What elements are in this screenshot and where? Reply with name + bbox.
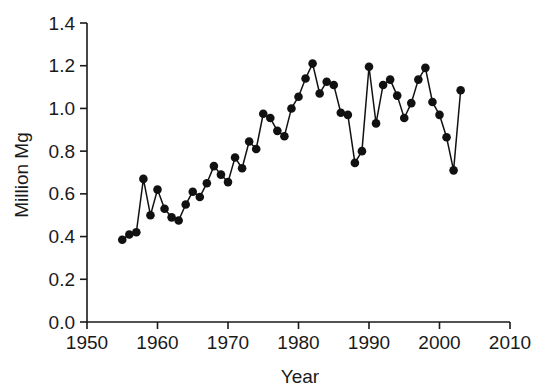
data-point-marker: [181, 200, 190, 209]
data-point-marker: [245, 137, 254, 146]
data-point-marker: [118, 235, 127, 244]
data-point-marker: [308, 59, 317, 68]
data-point-marker: [315, 89, 324, 98]
axis-frame: [87, 23, 510, 322]
x-tick-label: 2000: [418, 332, 460, 353]
line-chart: 0.00.20.40.60.81.01.21.4 195019601970198…: [0, 0, 549, 390]
data-point-marker: [414, 75, 423, 84]
data-point-marker: [407, 99, 416, 108]
y-axis-ticks: 0.00.20.40.60.81.01.21.4: [49, 13, 87, 333]
data-point-marker: [231, 153, 240, 162]
data-point-marker: [153, 185, 162, 194]
data-point-marker: [203, 179, 212, 188]
data-point-marker: [386, 75, 395, 84]
data-point-marker: [365, 62, 374, 71]
chart-figure: 0.00.20.40.60.81.01.21.4 195019601970198…: [0, 0, 549, 390]
x-tick-label: 2010: [489, 332, 531, 353]
x-tick-label: 1970: [207, 332, 249, 353]
y-tick-label: 0.0: [49, 312, 75, 333]
data-point-marker: [287, 104, 296, 113]
data-point-marker: [174, 216, 183, 225]
data-point-marker: [421, 64, 430, 73]
data-point-marker: [435, 111, 444, 120]
y-tick-label: 0.6: [49, 183, 75, 204]
data-point-marker: [273, 127, 282, 136]
x-tick-label: 1980: [277, 332, 319, 353]
data-point-marker: [329, 81, 338, 90]
data-point-marker: [372, 119, 381, 128]
data-point-marker: [449, 166, 458, 175]
data-point-marker: [456, 86, 465, 95]
data-point-marker: [146, 211, 155, 220]
data-point-marker: [301, 74, 310, 83]
data-point-marker: [210, 162, 219, 171]
data-point-marker: [400, 114, 409, 123]
data-point-marker: [139, 175, 148, 184]
y-tick-label: 1.0: [49, 98, 75, 119]
data-point-marker: [238, 164, 247, 173]
data-point-marker: [188, 187, 197, 196]
y-tick-label: 0.2: [49, 269, 75, 290]
y-tick-label: 1.4: [49, 13, 76, 34]
data-point-marker: [266, 114, 275, 123]
data-point-marker: [393, 91, 402, 100]
y-tick-label: 0.8: [49, 141, 75, 162]
data-point-marker: [160, 205, 169, 214]
data-point-marker: [280, 132, 289, 141]
x-axis-label: Year: [281, 366, 320, 387]
data-point-marker: [442, 133, 451, 142]
data-point-marker: [358, 147, 367, 156]
data-point-marker: [294, 92, 303, 101]
x-tick-label: 1950: [66, 332, 108, 353]
y-tick-label: 0.4: [49, 226, 76, 247]
y-tick-label: 1.2: [49, 55, 75, 76]
x-tick-label: 1960: [136, 332, 178, 353]
data-point-marker: [344, 111, 353, 120]
data-point-marker: [379, 81, 388, 90]
data-point-marker: [196, 193, 205, 202]
x-axis-ticks: 1950196019701980199020002010: [66, 322, 531, 353]
data-series: [118, 59, 465, 244]
data-point-marker: [351, 159, 360, 168]
data-point-marker: [132, 228, 141, 237]
x-tick-label: 1990: [348, 332, 390, 353]
data-point-marker: [252, 145, 261, 154]
data-point-marker: [224, 178, 233, 187]
data-point-marker: [428, 98, 437, 107]
y-axis-label: Million Mg: [11, 132, 32, 218]
data-point-marker: [217, 170, 226, 179]
axes: [87, 23, 510, 322]
